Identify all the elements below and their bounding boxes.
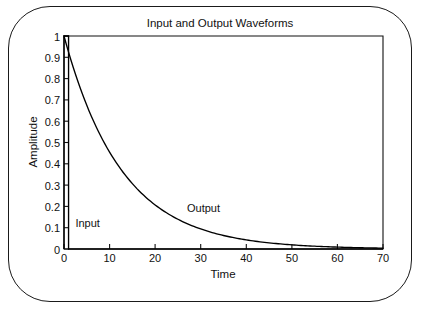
series-line-input xyxy=(64,36,383,249)
x-axis-tick-labels: 0 10 20 30 40 50 60 70 xyxy=(61,252,389,264)
y-tick-label-0.7: 0.7 xyxy=(45,94,60,106)
y-tick-label-0.9: 0.9 xyxy=(45,52,60,64)
chart-title: Input and Output Waveforms xyxy=(147,17,294,29)
x-tick-label-70: 70 xyxy=(377,252,389,264)
x-tick-label-60: 60 xyxy=(331,252,343,264)
x-tick-label-0: 0 xyxy=(61,252,67,264)
y-axis-tick-labels: 1 0.9 0.8 0.7 0.6 0.5 0.4 0.3 0.2 0.1 0 xyxy=(45,31,60,256)
y-tick-label-1.0: 1 xyxy=(54,31,60,43)
x-tick-label-50: 50 xyxy=(286,252,298,264)
figure-container: Input and Output Waveforms 1 0.9 0.8 0.7… xyxy=(0,0,426,312)
x-axis-title: Time xyxy=(210,268,235,280)
y-axis-title: Amplitude xyxy=(27,116,39,167)
annotation-input: Input xyxy=(75,217,99,229)
series-line-output xyxy=(64,36,383,248)
plot-frame-box xyxy=(64,36,383,249)
y-tick-label-0.5: 0.5 xyxy=(45,137,60,149)
annotation-output: Output xyxy=(187,202,220,214)
plot-frame xyxy=(64,36,383,249)
x-tick-label-10: 10 xyxy=(103,252,115,264)
y-tick-label-0.0: 0 xyxy=(54,244,60,256)
x-tick-label-20: 20 xyxy=(149,252,161,264)
y-tick-label-0.2: 0.2 xyxy=(45,201,60,213)
y-tick-label-0.3: 0.3 xyxy=(45,180,60,192)
waveform-chart: Input and Output Waveforms 1 0.9 0.8 0.7… xyxy=(0,0,426,312)
y-tick-label-0.8: 0.8 xyxy=(45,73,60,85)
y-tick-label-0.1: 0.1 xyxy=(45,222,60,234)
x-tick-label-30: 30 xyxy=(195,252,207,264)
y-tick-label-0.6: 0.6 xyxy=(45,116,60,128)
x-tick-label-40: 40 xyxy=(240,252,252,264)
y-tick-label-0.4: 0.4 xyxy=(45,158,60,170)
